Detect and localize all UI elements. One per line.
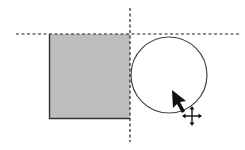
circle-shape[interactable] — [131, 37, 207, 113]
alignment-diagram — [0, 0, 245, 150]
filled-square[interactable] — [49, 34, 130, 118]
